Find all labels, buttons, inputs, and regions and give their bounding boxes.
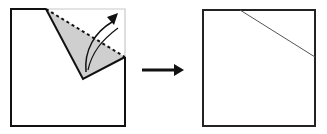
before-square <box>11 9 125 126</box>
after-square <box>203 10 315 126</box>
crease-line <box>240 10 315 57</box>
fold-diagram <box>0 0 327 134</box>
square-outline <box>203 10 315 126</box>
right-arrow-icon <box>142 64 184 76</box>
